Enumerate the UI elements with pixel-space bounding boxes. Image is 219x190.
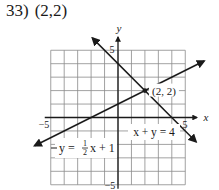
- equation-1-rhs: x + 1: [90, 141, 115, 155]
- equation-1-numerator: 1: [83, 139, 87, 148]
- equation-1-denominator: 2: [83, 148, 87, 157]
- tick-label-x-max: 5: [183, 119, 188, 130]
- intersection-label: (2, 2): [152, 85, 176, 98]
- tick-label-x-min: −5: [39, 119, 50, 130]
- axes: [45, 37, 197, 189]
- intersection-point: [143, 88, 148, 93]
- tick-label-y-min: −5: [105, 180, 116, 190]
- x-axis-label: x: [203, 111, 209, 123]
- equation-2-label: x + y = 4: [133, 126, 175, 139]
- coordinate-plane: xy−555−5(2, 2)y =12x + 1x + y = 4: [0, 0, 219, 190]
- equation-1-lhs: y =: [59, 141, 75, 155]
- y-axis-label: y: [116, 22, 122, 34]
- tick-label-y-max: 5: [110, 44, 115, 55]
